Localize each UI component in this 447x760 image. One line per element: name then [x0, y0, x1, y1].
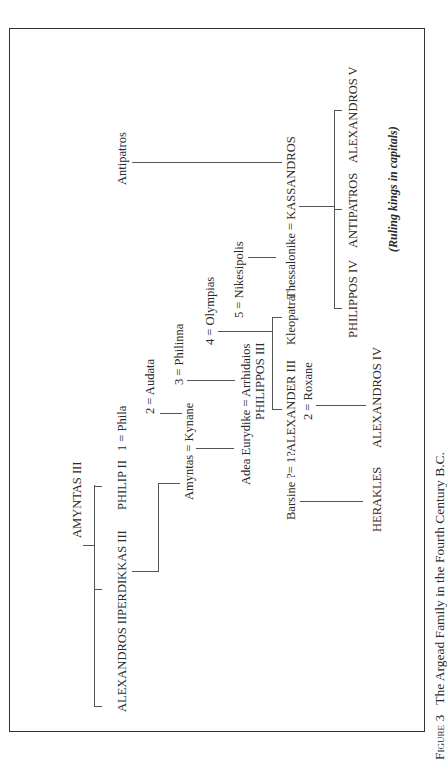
node-roxane: 2 = Roxane: [301, 362, 315, 420]
connector-audata-to-kynane: [160, 413, 182, 414]
connector-to-perdikkas3: [94, 589, 102, 590]
node-alexandros-v: ALEXANDROS V: [346, 66, 360, 163]
connector-amyntas-kynane-to-adea: [196, 448, 234, 449]
connector-perdikkas-to-amyntas-v: [158, 483, 159, 572]
node-herakles: HERAKLES: [370, 467, 384, 532]
node-philippos-iii: PHILIPPOS III: [253, 343, 267, 420]
connector-barsine-to-herakles: [300, 501, 363, 502]
connector-kassandros-children: [299, 206, 334, 207]
connector-perdikkas-to-amyntas: [132, 571, 158, 572]
node-audata: 2 = Audata: [143, 359, 157, 414]
node-phila: 1 = Phila: [115, 406, 129, 451]
connector-to-alexandros5: [334, 110, 342, 111]
node-antipatros-elder: Antipatros: [115, 132, 129, 185]
connector-to-philip2: [94, 486, 102, 487]
connector-to-kleopatra: [272, 317, 282, 318]
figure-label: Figure 3: [432, 715, 447, 760]
connector-olympias-children: [218, 331, 272, 332]
connector-olympias-bracket: [272, 317, 273, 409]
ruling-kings-note: (Ruling kings in capitals): [386, 126, 400, 252]
connector-to-philippos4: [334, 308, 342, 309]
connector-to-alexander3: [272, 409, 282, 410]
connector-to-alexandros2: [94, 706, 102, 707]
connector-amyntas-children: [83, 545, 94, 546]
node-olympias: 4 = Olympias: [203, 277, 217, 345]
connector-nikesipolis-to-thessalonike: [248, 257, 276, 258]
figure-caption: Figure 3The Argead Family in the Fourth …: [432, 452, 447, 760]
connector-antipatros-to-kassandros: [132, 162, 282, 163]
connector-roxane-to-alexandros4: [316, 405, 366, 406]
figure-title: The Argead Family in the Fourth Century …: [432, 452, 447, 705]
node-philippos-iv: PHILIPPOS IV: [346, 260, 360, 338]
node-alexandros-iv: ALEXANDROS IV: [370, 347, 384, 448]
node-nikesipolis: 5 = Nikesipolis: [232, 242, 246, 319]
node-alexandros-ii: ALEXANDROS II: [115, 616, 129, 712]
node-antipatros: ANTIPATROS: [346, 173, 360, 248]
node-philinna: 3 = Philinna: [172, 324, 186, 385]
node-thessalonike-kassandros: Thessalonike = KASSANDROS: [284, 136, 298, 299]
connector-to-amyntas: [158, 483, 180, 484]
connector-philinna-to-arrhidaios: [187, 380, 235, 381]
node-adea-arrhidaios: Adea Eurydike = Arrhidaios: [239, 344, 253, 485]
node-amyntas-iii: AMYNTAS III: [70, 462, 84, 538]
connector-to-antipatros: [334, 209, 342, 210]
node-alexander-iii: ALEXANDER III: [284, 360, 298, 452]
connector-sibling-bracket: [94, 485, 95, 707]
node-perdikkas-iii: PERDIKKAS III: [115, 530, 129, 616]
node-kleopatra: Kleopatra: [284, 296, 298, 345]
node-barsine: Barsine ?= 1?: [284, 451, 298, 520]
node-amyntas-kynane: Amyntas = Kynane: [182, 403, 196, 500]
node-philip-ii: PHILIP II: [115, 460, 129, 510]
